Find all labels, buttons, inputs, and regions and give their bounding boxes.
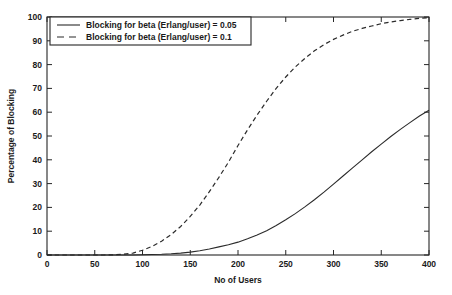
chart-svg: 050100150200250300350400 010203040506070… [0, 0, 452, 295]
x-tick-label: 0 [45, 259, 50, 269]
x-tick-label: 200 [231, 259, 245, 269]
y-axis-tick-labels: 0102030405060708090100 [28, 12, 42, 260]
y-tick-label: 50 [33, 131, 43, 141]
y-tick-label: 100 [28, 12, 42, 22]
x-axis-title: No of Users [214, 275, 262, 285]
x-tick-label: 400 [422, 259, 436, 269]
chart-figure: 050100150200250300350400 010203040506070… [0, 0, 452, 295]
legend-label-0: Blocking for beta (Erlang/user) = 0.05 [86, 20, 237, 30]
x-tick-label: 250 [279, 259, 293, 269]
y-axis-title: Percentage of Blocking [6, 89, 16, 183]
legend: Blocking for beta (Erlang/user) = 0.05 B… [50, 17, 251, 45]
y-tick-label: 0 [37, 250, 42, 260]
y-tick-label: 80 [33, 60, 43, 70]
x-tick-label: 50 [90, 259, 100, 269]
y-tick-label: 60 [33, 107, 43, 117]
x-tick-label: 100 [135, 259, 149, 269]
y-tick-label: 10 [33, 226, 43, 236]
x-tick-label: 350 [374, 259, 388, 269]
x-tick-label: 150 [183, 259, 197, 269]
y-tick-label: 40 [33, 155, 43, 165]
legend-label-1: Blocking for beta (Erlang/user) = 0.1 [86, 32, 232, 42]
y-tick-label: 70 [33, 83, 43, 93]
y-tick-label: 30 [33, 179, 43, 189]
y-tick-label: 20 [33, 202, 43, 212]
plot-area-background [47, 17, 429, 255]
x-axis-tick-labels: 050100150200250300350400 [45, 259, 437, 269]
x-tick-label: 300 [326, 259, 340, 269]
y-tick-label: 90 [33, 36, 43, 46]
